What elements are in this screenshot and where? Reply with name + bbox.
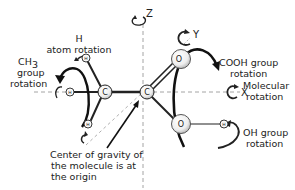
- ch3-label-line2: group: [17, 67, 45, 78]
- z-axis-label: Z: [146, 8, 153, 19]
- bond-h-top-c: [88, 62, 101, 87]
- svg-text:C: C: [144, 88, 150, 97]
- cog-label-line3: the origin: [51, 171, 97, 182]
- svg-text:C: C: [102, 88, 108, 97]
- cog-label-line1: Center of gravity of: [50, 149, 143, 160]
- svg-text:O: O: [176, 55, 182, 64]
- atom-hydrogen-hydroxyl: H: [220, 120, 228, 128]
- y-axis-rotation-icon: Y: [178, 29, 200, 45]
- bond-h-bottom-c: [91, 98, 101, 120]
- z-axis-rotation-icon: Z: [132, 8, 153, 25]
- oh-label-line2: rotation: [246, 138, 283, 149]
- bond-c-o-single: [152, 97, 174, 119]
- cog-pointer-arrow: [107, 100, 139, 148]
- svg-text:H: H: [86, 122, 89, 127]
- h-rotation-label-line2: atom rotation: [47, 44, 112, 55]
- labels: H atom rotation CH 3 group rotation COOH…: [10, 33, 289, 182]
- svg-text:O: O: [178, 120, 184, 129]
- ch3-rotation-arrow: [55, 68, 89, 127]
- h-rotation-label-line1: H: [75, 33, 82, 44]
- svg-text:H: H: [68, 90, 71, 95]
- molecular-label-line2: rotation: [246, 91, 283, 102]
- molecular-label-line1: Molecular: [243, 80, 289, 91]
- cooh-label-line1: COOH group: [219, 57, 278, 68]
- atom-hydrogen-left: H: [66, 88, 74, 96]
- oh-label-line1: OH group: [243, 127, 288, 138]
- atom-hydrogen-bottom: H: [84, 120, 92, 128]
- svg-text:H: H: [84, 56, 87, 61]
- atom-hydrogen-top: H: [82, 54, 90, 62]
- atom-oxygen-hydroxyl: O: [172, 115, 191, 134]
- atom-carbon-left: C: [98, 85, 112, 99]
- atom-oxygen-double: O: [172, 50, 191, 69]
- bond-c-o-double-a: [150, 62, 174, 86]
- ch3-label-line3: rotation: [10, 78, 47, 89]
- cooh-label-line2: rotation: [230, 68, 267, 79]
- ch3-label-line1: CH: [18, 56, 32, 67]
- cog-label-line2: the molecule is at: [51, 160, 136, 171]
- acetic-acid-rotation-diagram: Z Y X: [0, 0, 295, 190]
- svg-text:H: H: [222, 122, 225, 127]
- h-bottom-rotation-arrow: [82, 131, 88, 143]
- atom-carbon-right: C: [140, 85, 154, 99]
- y-axis-label: Y: [192, 29, 200, 40]
